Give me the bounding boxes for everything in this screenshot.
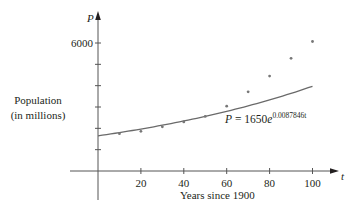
data-point bbox=[247, 90, 250, 93]
equation-exponent: 0.0087846t bbox=[272, 111, 307, 120]
y-axis-label-line2: (in millions) bbox=[11, 109, 66, 122]
equation-variable: P bbox=[224, 113, 232, 125]
y-axis-arrow-icon bbox=[95, 11, 101, 20]
data-point bbox=[204, 115, 207, 118]
data-point bbox=[290, 57, 293, 60]
x-tick-label: 80 bbox=[264, 177, 276, 189]
data-point bbox=[182, 121, 185, 124]
data-point bbox=[161, 125, 164, 128]
population-chart: P t 6000 20406080100 Population (in mill… bbox=[0, 0, 352, 213]
x-tick-label: 20 bbox=[135, 177, 147, 189]
x-tick-label: 100 bbox=[304, 177, 321, 189]
data-point bbox=[268, 75, 271, 78]
x-axis-variable: t bbox=[341, 170, 345, 182]
x-axis-label: Years since 1900 bbox=[180, 189, 255, 201]
equation-coefficient: = 1650 bbox=[232, 113, 267, 125]
data-point bbox=[311, 40, 314, 43]
x-axis-arrow-icon bbox=[330, 168, 339, 174]
model-equation: P = 1650e0.0087846t bbox=[224, 111, 307, 125]
y-axis-label-line1: Population bbox=[14, 94, 62, 106]
data-point bbox=[118, 132, 121, 135]
x-tick-label: 60 bbox=[221, 177, 233, 189]
y-ticks: 6000 bbox=[71, 37, 101, 150]
data-point bbox=[225, 105, 228, 108]
x-tick-label: 40 bbox=[178, 177, 190, 189]
y-axis-variable: P bbox=[86, 12, 94, 24]
y-tick-label: 6000 bbox=[71, 37, 94, 49]
data-points bbox=[118, 40, 314, 135]
data-point bbox=[140, 130, 143, 133]
axes: P t bbox=[70, 11, 345, 200]
